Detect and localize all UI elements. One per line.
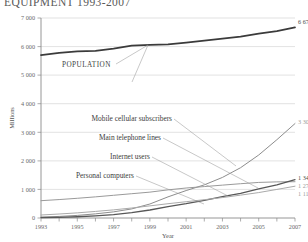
- series-line-personal-computers: [41, 186, 295, 215]
- x-tick-label-1993: 1993: [35, 223, 47, 230]
- end-label-internet-users: 1 344: [298, 174, 308, 181]
- annotation-personal-computers: Personal computers: [76, 171, 134, 180]
- end-label-mobile-cellular: 3 305: [298, 118, 308, 125]
- x-tick-label-2001: 2001: [180, 223, 192, 230]
- leader-line-telephone: [163, 138, 258, 188]
- end-label-personal-computers: 1 113: [298, 190, 308, 197]
- y-tick-label-3000: 3 000: [21, 129, 35, 136]
- x-axis-title: Year: [162, 232, 175, 239]
- annotation-mobile-cellular-subscribers: Mobile cellular subscribers: [92, 114, 173, 123]
- y-tick-label-2000: 2 000: [21, 157, 35, 164]
- leader-line-mobile: [174, 119, 236, 166]
- series-line-main-telephone-lines: [41, 182, 295, 201]
- y-tick-label-0: 0: [32, 214, 35, 221]
- annotation-leader-lines: [116, 45, 258, 204]
- y-axis-title: Millions: [8, 107, 15, 129]
- y-tick-label-7000: 7 000: [21, 14, 35, 21]
- y-tick-label-1000: 1 000: [21, 186, 35, 193]
- end-label-population: 6 671: [298, 18, 308, 25]
- leader-line-computers: [136, 176, 204, 204]
- x-tick-label-2005: 2005: [253, 223, 265, 230]
- x-tick-label-2007: 2007: [289, 223, 301, 230]
- y-axis-ticks: [38, 18, 42, 218]
- annotation-population: POPULATION: [62, 61, 111, 69]
- x-tick-label-1997: 1997: [107, 223, 119, 230]
- annotation-internet-users: Internet users: [110, 152, 150, 161]
- chart-container: EQUIPMENT 1993-2007 7 000 6 0: [0, 0, 308, 242]
- x-tick-label-1999: 1999: [144, 223, 156, 230]
- x-axis-ticks: [41, 218, 295, 222]
- y-tick-label-6000: 6 000: [21, 43, 35, 50]
- y-tick-label-4000: 4 000: [21, 100, 35, 107]
- annotation-main-telephone-lines: Main telephone lines: [99, 133, 161, 142]
- x-tick-label-2003: 2003: [216, 223, 228, 230]
- series-line-population: [41, 27, 295, 55]
- leader-line-population-2: [132, 45, 148, 82]
- x-tick-label-1995: 1995: [71, 223, 83, 230]
- y-tick-label-5000: 5 000: [21, 71, 35, 78]
- end-label-main-telephone-lines: 1 270: [298, 182, 308, 189]
- line-chart-plot: 7 000 6 000 5 000 4 000 3 000 2 000 1 00…: [0, 0, 308, 242]
